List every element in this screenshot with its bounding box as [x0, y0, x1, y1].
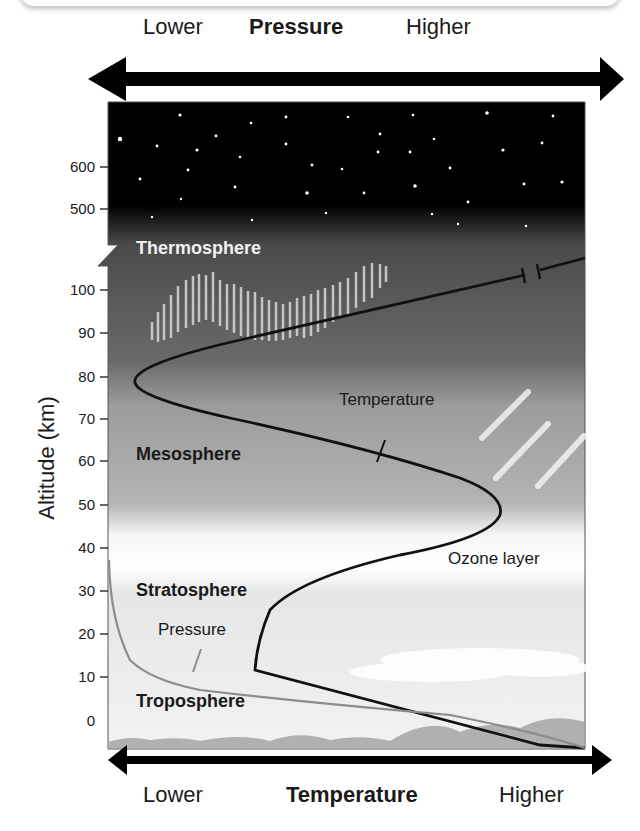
temperature-curve-label: Temperature	[339, 390, 434, 410]
y-axis-ticks	[100, 167, 108, 677]
layer-stratosphere: Stratosphere	[136, 580, 247, 601]
ozone-layer-label: Ozone layer	[448, 549, 540, 569]
tick-20: 20	[55, 625, 95, 642]
pressure-arrow	[88, 57, 624, 101]
tick-90: 90	[55, 324, 95, 341]
tick-80: 80	[55, 368, 95, 385]
layer-mesosphere: Mesosphere	[136, 444, 241, 465]
tick-40: 40	[55, 539, 95, 556]
temperature-higher-label: Higher	[499, 782, 564, 808]
temperature-lower-label: Lower	[143, 782, 203, 808]
tick-0: 0	[55, 712, 95, 729]
tick-70: 70	[55, 410, 95, 427]
atmosphere-diagram	[0, 0, 640, 831]
tick-100: 100	[55, 281, 95, 298]
layer-troposphere: Troposphere	[136, 691, 245, 712]
tick-60: 60	[55, 452, 95, 469]
altitude-axis-title: Altitude (km)	[34, 373, 60, 543]
tick-30: 30	[55, 582, 95, 599]
temperature-axis-title: Temperature	[286, 782, 418, 808]
layer-thermosphere: Thermosphere	[136, 238, 261, 259]
pressure-curve-label: Pressure	[158, 620, 226, 640]
tick-50: 50	[55, 496, 95, 513]
tick-500: 500	[55, 200, 95, 217]
tick-600: 600	[55, 158, 95, 175]
tick-10: 10	[55, 668, 95, 685]
